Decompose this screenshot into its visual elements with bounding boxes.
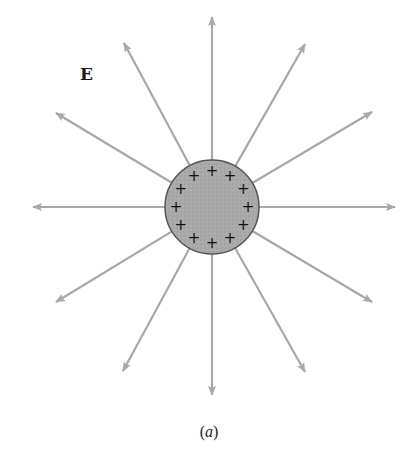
positive-charge-icon: + bbox=[224, 167, 237, 185]
positive-charge-icon: + bbox=[188, 167, 201, 185]
field-line-arrow-nne bbox=[234, 44, 305, 168]
field-line-arrow-ese bbox=[251, 230, 372, 302]
positive-charge-icon: + bbox=[170, 198, 183, 216]
field-line-arrow-sse bbox=[234, 246, 305, 372]
positive-charge-icon: + bbox=[237, 180, 250, 198]
field-line-arrow-ssw bbox=[123, 247, 191, 371]
positive-charge-icon: + bbox=[175, 216, 188, 234]
positive-charge-icon: + bbox=[242, 198, 255, 216]
positive-charge-icon: + bbox=[206, 162, 219, 180]
positive-charge-icon: + bbox=[175, 180, 188, 198]
figure-caption: (a) bbox=[0, 423, 418, 441]
field-label-E: E bbox=[80, 64, 93, 84]
positive-charge-icon: + bbox=[237, 216, 250, 234]
electric-field-diagram: ++++++++++++ bbox=[0, 0, 418, 459]
field-line-arrow-wnw bbox=[56, 113, 173, 184]
field-line-arrow-nnw bbox=[124, 43, 191, 167]
caption-letter: a bbox=[205, 423, 213, 440]
field-line-arrow-ene bbox=[251, 112, 372, 184]
positive-charge-icon: + bbox=[224, 229, 237, 247]
positive-charge-icon: + bbox=[188, 229, 201, 247]
positive-charge-icon: + bbox=[206, 234, 219, 252]
caption-close-paren: ) bbox=[213, 423, 218, 440]
field-line-arrow-wsw bbox=[56, 230, 174, 302]
